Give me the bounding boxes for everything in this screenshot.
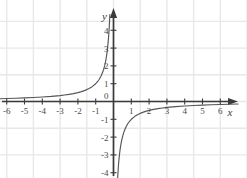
x-tick-label: 4 [182, 106, 187, 116]
x-tick-label: 5 [200, 106, 205, 116]
x-tick-label: -6 [3, 106, 11, 116]
y-axis-label: y [101, 10, 107, 22]
x-tick-label: 6 [218, 106, 223, 116]
y-tick-label: -4 [101, 168, 109, 178]
curve-group [0, 15, 238, 178]
coordinate-plane: -6-5-4-3-2-11234564321-1-2-3-40 yx [0, 0, 247, 178]
curve-branch-upper-left [0, 15, 110, 99]
x-tick-label: -1 [92, 106, 100, 116]
origin-label: 0 [104, 91, 109, 101]
graph-figure: -6-5-4-3-2-11234564321-1-2-3-40 yx [0, 0, 247, 178]
y-tick-label: -3 [101, 150, 109, 160]
grid-lines [0, 0, 247, 178]
x-tick-label: -3 [56, 106, 64, 116]
y-tick-label: 1 [104, 79, 109, 89]
x-tick-label: -2 [74, 106, 82, 116]
x-tick-label: -5 [21, 106, 29, 116]
y-axis-arrowhead [110, 8, 117, 18]
x-axis-label: x [227, 106, 233, 118]
y-tick-label: -2 [101, 133, 109, 143]
x-tick-label: -4 [39, 106, 47, 116]
y-tick-label: -1 [101, 115, 109, 125]
x-tick-label: 1 [129, 106, 134, 116]
